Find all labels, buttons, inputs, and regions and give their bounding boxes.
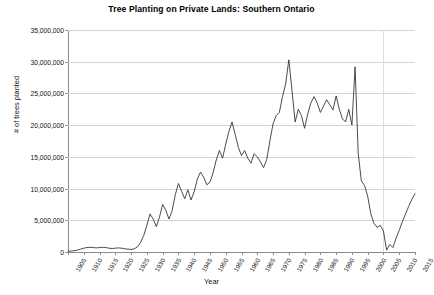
y-axis-label: # of trees planted bbox=[12, 45, 21, 165]
x-tick-label: 1950 bbox=[216, 257, 229, 273]
x-tick-mark bbox=[320, 252, 321, 255]
x-tick-mark bbox=[336, 252, 337, 255]
x-tick-label: 1935 bbox=[169, 257, 182, 273]
x-tick-label: 2005 bbox=[390, 257, 403, 273]
x-tick-mark bbox=[178, 252, 179, 255]
y-tick-label: 35,000,000 bbox=[31, 27, 64, 34]
x-tick-mark bbox=[68, 252, 69, 255]
x-tick-label: 1945 bbox=[200, 257, 213, 273]
x-tick-label: 2000 bbox=[374, 257, 387, 273]
x-axis-label: Year bbox=[0, 277, 423, 286]
x-tick-label: 1925 bbox=[137, 257, 150, 273]
x-tick-label: 1980 bbox=[311, 257, 324, 273]
x-tick-label: 1985 bbox=[326, 257, 339, 273]
x-tick-mark bbox=[368, 252, 369, 255]
y-tick-label: 30,000,000 bbox=[31, 58, 64, 65]
x-tick-label: 1970 bbox=[279, 257, 292, 273]
x-tick-mark bbox=[163, 252, 164, 255]
x-tick-mark bbox=[257, 252, 258, 255]
y-tick-label: 10,000,000 bbox=[31, 185, 64, 192]
chart-title: Tree Planting on Private Lands: Southern… bbox=[0, 4, 423, 14]
x-tick-mark bbox=[273, 252, 274, 255]
x-tick-mark bbox=[115, 252, 116, 255]
x-tick-mark bbox=[194, 252, 195, 255]
x-tick-label: 1960 bbox=[248, 257, 261, 273]
x-tick-mark bbox=[352, 252, 353, 255]
x-tick-label: 1905 bbox=[74, 257, 87, 273]
x-tick-mark bbox=[415, 252, 416, 255]
x-tick-label: 1965 bbox=[263, 257, 276, 273]
x-tick-mark bbox=[84, 252, 85, 255]
x-tick-mark bbox=[289, 252, 290, 255]
x-tick-label: 2015 bbox=[421, 257, 434, 273]
x-tick-label: 1915 bbox=[106, 257, 119, 273]
line-series bbox=[68, 30, 415, 252]
x-tick-mark bbox=[210, 252, 211, 255]
x-tick-label: 1940 bbox=[185, 257, 198, 273]
x-tick-label: 1930 bbox=[153, 257, 166, 273]
y-tick-label: 15,000,000 bbox=[31, 153, 64, 160]
x-tick-mark bbox=[147, 252, 148, 255]
x-tick-mark bbox=[131, 252, 132, 255]
x-tick-label: 2010 bbox=[405, 257, 418, 273]
x-tick-mark bbox=[383, 252, 384, 255]
x-tick-label: 1990 bbox=[342, 257, 355, 273]
x-tick-label: 1910 bbox=[90, 257, 103, 273]
x-tick-label: 1975 bbox=[295, 257, 308, 273]
series-path bbox=[68, 60, 415, 251]
y-tick-label: 0 bbox=[60, 249, 64, 256]
plot-area: 05,000,00010,000,00015,000,00020,000,000… bbox=[68, 30, 415, 252]
y-tick-label: 25,000,000 bbox=[31, 90, 64, 97]
y-tick-label: 20,000,000 bbox=[31, 122, 64, 129]
x-tick-label: 1995 bbox=[358, 257, 371, 273]
x-tick-mark bbox=[242, 252, 243, 255]
x-tick-mark bbox=[399, 252, 400, 255]
x-tick-mark bbox=[226, 252, 227, 255]
x-tick-mark bbox=[305, 252, 306, 255]
x-tick-mark bbox=[100, 252, 101, 255]
x-tick-label: 1920 bbox=[121, 257, 134, 273]
y-tick-label: 5,000,000 bbox=[34, 217, 64, 224]
x-tick-label: 1955 bbox=[232, 257, 245, 273]
